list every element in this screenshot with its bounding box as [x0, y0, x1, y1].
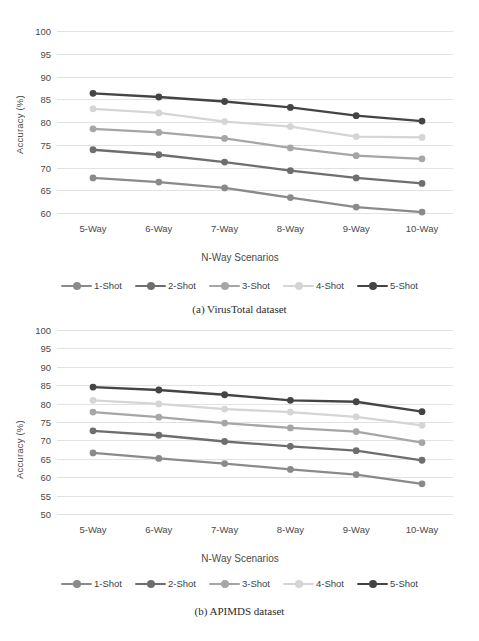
data-point-4-shot	[287, 409, 294, 416]
series-line-1-shot	[93, 178, 422, 212]
figure-page: Accuracy (%) 60657075808590951005-Way6-W…	[0, 0, 479, 641]
panel-b-figure: Accuracy (%) 505560657075808590951005-Wa…	[0, 320, 479, 641]
legend-item-1-shot[interactable]: 1-Shot	[61, 578, 122, 589]
data-point-1-shot	[221, 460, 228, 467]
legend-label: 1-Shot	[92, 280, 122, 291]
data-point-1-shot	[287, 194, 294, 201]
data-point-1-shot	[353, 471, 360, 478]
data-point-1-shot	[221, 185, 228, 192]
data-point-5-shot	[90, 90, 97, 97]
data-point-4-shot	[287, 123, 294, 130]
series-layer	[0, 320, 479, 550]
data-point-4-shot	[419, 422, 426, 429]
data-point-3-shot	[419, 439, 426, 446]
data-point-5-shot	[419, 408, 426, 415]
data-point-2-shot	[90, 146, 97, 153]
legend-marker-icon	[283, 281, 314, 291]
data-point-4-shot	[155, 110, 162, 117]
legend-label: 5-Shot	[388, 578, 418, 589]
legend-item-2-shot[interactable]: 2-Shot	[135, 578, 196, 589]
data-point-1-shot	[155, 455, 162, 462]
data-point-5-shot	[287, 104, 294, 111]
data-point-2-shot	[287, 443, 294, 450]
legend-item-4-shot[interactable]: 4-Shot	[283, 280, 344, 291]
panel-a-x-axis-title: N-Way Scenarios	[30, 252, 450, 263]
legend-item-4-shot[interactable]: 4-Shot	[283, 578, 344, 589]
data-point-4-shot	[221, 118, 228, 125]
legend-marker-icon	[357, 579, 388, 589]
legend-marker-icon	[61, 579, 92, 589]
legend-marker-icon	[209, 281, 240, 291]
data-point-1-shot	[419, 480, 426, 487]
legend-marker-icon	[135, 281, 166, 291]
legend-label: 4-Shot	[314, 578, 344, 589]
data-point-5-shot	[419, 118, 426, 125]
data-point-2-shot	[419, 180, 426, 187]
data-point-1-shot	[353, 204, 360, 211]
data-point-1-shot	[287, 466, 294, 473]
legend-item-5-shot[interactable]: 5-Shot	[357, 280, 418, 291]
data-point-3-shot	[419, 155, 426, 162]
data-point-5-shot	[353, 398, 360, 405]
panel-b-legend: 1-Shot2-Shot3-Shot4-Shot5-Shot	[0, 578, 479, 589]
data-point-2-shot	[287, 167, 294, 174]
legend-label: 3-Shot	[240, 280, 270, 291]
data-point-5-shot	[287, 397, 294, 404]
series-line-4-shot	[93, 109, 422, 138]
data-point-3-shot	[353, 152, 360, 159]
data-point-2-shot	[155, 151, 162, 158]
data-point-2-shot	[353, 175, 360, 182]
panel-b-x-axis-title: N-Way Scenarios	[30, 553, 450, 564]
panel-a-legend: 1-Shot2-Shot3-Shot4-Shot5-Shot	[0, 280, 479, 291]
panel-a-figure: Accuracy (%) 60657075808590951005-Way6-W…	[0, 0, 479, 320]
data-point-5-shot	[353, 112, 360, 119]
series-line-3-shot	[93, 412, 422, 443]
legend-label: 2-Shot	[166, 578, 196, 589]
series-line-5-shot	[93, 93, 422, 121]
legend-label: 4-Shot	[314, 280, 344, 291]
data-point-2-shot	[155, 432, 162, 439]
data-point-4-shot	[155, 401, 162, 408]
data-point-1-shot	[90, 175, 97, 182]
series-layer	[0, 0, 479, 250]
legend-marker-icon	[209, 579, 240, 589]
legend-item-3-shot[interactable]: 3-Shot	[209, 578, 270, 589]
legend-item-2-shot[interactable]: 2-Shot	[135, 280, 196, 291]
data-point-3-shot	[287, 424, 294, 431]
series-line-5-shot	[93, 387, 422, 412]
data-point-3-shot	[221, 135, 228, 142]
data-point-5-shot	[221, 391, 228, 398]
data-point-3-shot	[155, 129, 162, 136]
data-point-2-shot	[221, 159, 228, 166]
legend-marker-icon	[357, 281, 388, 291]
legend-label: 3-Shot	[240, 578, 270, 589]
data-point-3-shot	[90, 409, 97, 416]
data-point-3-shot	[221, 420, 228, 427]
data-point-5-shot	[155, 387, 162, 394]
legend-item-1-shot[interactable]: 1-Shot	[61, 280, 122, 291]
legend-item-3-shot[interactable]: 3-Shot	[209, 280, 270, 291]
data-point-3-shot	[90, 125, 97, 132]
legend-label: 5-Shot	[388, 280, 418, 291]
series-line-1-shot	[93, 453, 422, 484]
data-point-4-shot	[353, 413, 360, 420]
data-point-2-shot	[221, 438, 228, 445]
panel-b-plot-area: 505560657075808590951005-Way6-Way7-Way8-…	[0, 320, 479, 550]
data-point-2-shot	[419, 457, 426, 464]
legend-label: 2-Shot	[166, 280, 196, 291]
series-line-2-shot	[93, 150, 422, 184]
data-point-5-shot	[221, 98, 228, 105]
data-point-5-shot	[155, 94, 162, 101]
data-point-3-shot	[287, 145, 294, 152]
legend-item-5-shot[interactable]: 5-Shot	[357, 578, 418, 589]
data-point-2-shot	[90, 427, 97, 434]
data-point-2-shot	[353, 447, 360, 454]
data-point-4-shot	[221, 406, 228, 413]
data-point-1-shot	[419, 209, 426, 216]
legend-marker-icon	[61, 281, 92, 291]
legend-marker-icon	[283, 579, 314, 589]
data-point-5-shot	[90, 384, 97, 391]
data-point-4-shot	[90, 105, 97, 112]
data-point-3-shot	[155, 414, 162, 421]
data-point-1-shot	[155, 179, 162, 186]
